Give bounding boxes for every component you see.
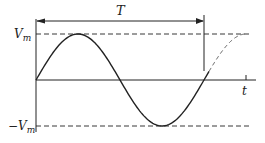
sine-wave-diagram: T t Vm −Vm bbox=[0, 0, 265, 143]
negative-peak-subscript: m bbox=[27, 125, 36, 135]
period-label: T bbox=[116, 3, 126, 18]
negative-peak-symbol: −V bbox=[8, 119, 28, 133]
positive-peak-subscript: m bbox=[23, 33, 32, 43]
negative-peak-label: −Vm bbox=[8, 119, 35, 135]
positive-peak-label: Vm bbox=[14, 27, 31, 43]
period-arrow-left-head bbox=[36, 19, 45, 24]
time-axis-label: t bbox=[242, 84, 247, 98]
sine-continuation-dashed bbox=[209, 34, 246, 71]
